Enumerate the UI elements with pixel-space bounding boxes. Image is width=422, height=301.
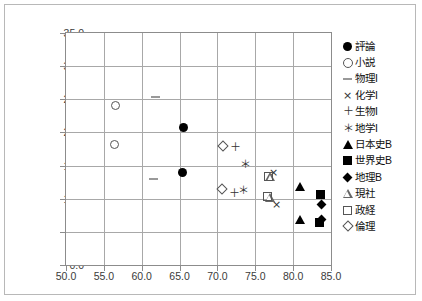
legend: 評論小説物理I×化学I＋生物I＊地学I日本史B世界史B地理B現社政経倫理 xyxy=(341,38,417,235)
data-point-filled-circle xyxy=(178,168,187,177)
gridline-vertical xyxy=(255,33,256,265)
data-point-plus: ＋ xyxy=(230,142,239,153)
data-point-open-circle xyxy=(110,140,119,149)
x-axis-tick-mark xyxy=(217,266,218,271)
legend-item-12[interactable]: 倫理 xyxy=(341,218,417,234)
legend-item-6[interactable]: ＊地学I xyxy=(341,120,417,136)
x-axis-tick-mark xyxy=(66,266,67,271)
data-point-filled-triangle xyxy=(295,182,305,191)
legend-item-label: 日本史B xyxy=(355,138,392,151)
data-point-dash xyxy=(149,178,158,180)
gridline-horizontal xyxy=(66,99,331,100)
data-point-open-diamond xyxy=(217,141,228,152)
data-point-filled-circle xyxy=(179,123,188,132)
x-axis-tick-label: 85.0 xyxy=(308,271,354,282)
data-point-open-square xyxy=(264,172,273,181)
legend-item-label: 地学I xyxy=(355,122,378,135)
x-axis-tick-mark xyxy=(142,266,143,271)
gridline-vertical xyxy=(180,33,181,265)
legend-item-3[interactable]: 物理I xyxy=(341,71,417,87)
legend-item-label: 物理I xyxy=(355,72,378,85)
legend-item-label: 政経 xyxy=(355,204,375,217)
legend-item-8[interactable]: 世界史B xyxy=(341,153,417,169)
open-triangle-icon xyxy=(341,187,354,200)
data-point-plus: ＋ xyxy=(229,188,238,199)
legend-item-9[interactable]: 地理B xyxy=(341,169,417,185)
gridline-horizontal xyxy=(66,66,331,67)
legend-item-label: 小説 xyxy=(355,56,375,69)
data-point-open-square xyxy=(263,192,272,201)
gridline-horizontal xyxy=(66,232,331,233)
open-square-icon xyxy=(341,204,354,217)
plot-area: ××＋＋＊＊ xyxy=(65,32,332,266)
gridline-vertical xyxy=(142,33,143,265)
data-point-open-circle xyxy=(111,101,120,110)
legend-item-label: 現社 xyxy=(355,187,375,200)
legend-item-label: 世界史B xyxy=(355,154,392,167)
legend-item-2[interactable]: 小説 xyxy=(341,54,417,70)
data-point-filled-square xyxy=(316,190,325,199)
data-point-star: ＊ xyxy=(240,159,249,170)
gridline-horizontal xyxy=(66,166,331,167)
gridline-vertical xyxy=(217,33,218,265)
x-axis-tick-mark xyxy=(104,266,105,271)
data-point-dash xyxy=(151,96,160,98)
gridline-vertical xyxy=(104,33,105,265)
dash-icon xyxy=(341,72,354,85)
legend-item-label: 生物I xyxy=(355,105,378,118)
legend-item-label: 地理B xyxy=(355,171,382,184)
filled-square-icon xyxy=(341,154,354,167)
chart-frame: 0.05.010.015.020.025.030.035.0 50.055.06… xyxy=(4,4,416,295)
legend-item-10[interactable]: 現社 xyxy=(341,186,417,202)
legend-item-5[interactable]: ＋生物I xyxy=(341,104,417,120)
cross-icon: × xyxy=(341,89,354,102)
filled-triangle-icon xyxy=(341,138,354,151)
filled-circle-icon xyxy=(341,40,354,53)
data-point-star: ＊ xyxy=(238,185,247,196)
star-icon: ＊ xyxy=(341,122,354,135)
data-point-filled-triangle xyxy=(295,215,305,224)
legend-item-11[interactable]: 政経 xyxy=(341,202,417,218)
open-circle-icon xyxy=(341,56,354,69)
legend-item-label: 倫理 xyxy=(355,220,375,233)
data-point-filled-diamond xyxy=(316,199,326,209)
legend-item-7[interactable]: 日本史B xyxy=(341,136,417,152)
x-axis-tick-mark xyxy=(180,266,181,271)
x-axis-tick-mark xyxy=(255,266,256,271)
legend-item-label: 評論 xyxy=(355,40,375,53)
open-diamond-icon xyxy=(341,220,354,233)
gridline-vertical xyxy=(293,33,294,265)
legend-item-1[interactable]: 評論 xyxy=(341,38,417,54)
legend-item-label: 化学I xyxy=(355,89,378,102)
plus-icon: ＋ xyxy=(341,105,354,118)
x-axis-tick-mark xyxy=(331,266,332,271)
gridline-horizontal xyxy=(66,199,331,200)
filled-diamond-icon xyxy=(341,171,354,184)
gridline-horizontal xyxy=(66,132,331,133)
legend-item-4[interactable]: ×化学I xyxy=(341,87,417,103)
x-axis-tick-mark xyxy=(293,266,294,271)
